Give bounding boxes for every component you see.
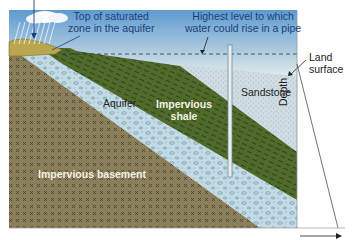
label-land-line2: surface — [309, 64, 343, 76]
label-saturated-zone-line2: zone in the aquifer — [68, 23, 154, 35]
label-shale-line1: Impervious — [156, 99, 212, 111]
label-basement: Impervious basement — [38, 169, 146, 181]
label-shale-line2: shale — [156, 111, 212, 123]
label-aquifer: Aquifer — [103, 98, 136, 110]
label-depth: Depth — [278, 78, 290, 106]
label-saturated-zone: Top of saturated zone in the aquifer — [68, 11, 154, 34]
well-pipe — [228, 45, 232, 177]
label-land-surface: Land surface — [309, 52, 343, 75]
label-highest-level-line2: water could rise in a pipe — [185, 23, 301, 35]
label-saturated-zone-line1: Top of saturated — [68, 11, 154, 23]
label-shale: Impervious shale — [156, 99, 212, 122]
label-highest-level-line1: Highest level to which — [185, 11, 301, 23]
label-land-line1: Land — [309, 52, 343, 64]
label-highest-level: Highest level to which water could rise … — [185, 11, 301, 34]
